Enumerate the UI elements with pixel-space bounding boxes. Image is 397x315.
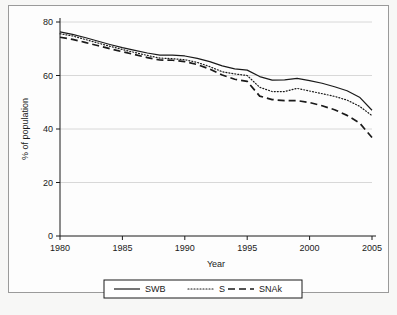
- x-axis-label: Year: [207, 259, 225, 269]
- x-tick-label: 1985: [112, 243, 132, 253]
- y-tick-label: 0: [48, 231, 53, 241]
- figure-container: 020406080 198019851990199520002005 % of …: [0, 0, 397, 315]
- x-tick-label: 2000: [300, 243, 320, 253]
- series-line-s: [60, 34, 372, 116]
- series-line-snak: [60, 37, 372, 137]
- y-tick-label: 20: [43, 178, 53, 188]
- x-axis-ticks: 198019851990199520002005: [50, 236, 382, 253]
- x-tick-label: 1990: [175, 243, 195, 253]
- x-tick-label: 1995: [237, 243, 257, 253]
- data-series-group: [60, 32, 372, 138]
- legend-label-swb: SWB: [145, 284, 166, 294]
- y-axis-ticks: 020406080: [43, 17, 60, 241]
- x-tick-label: 1980: [50, 243, 70, 253]
- chart-legend: SWBSSNAk: [104, 280, 302, 298]
- line-chart: 020406080 198019851990199520002005 % of …: [0, 0, 397, 315]
- legend-label-snak: SNAk: [259, 284, 283, 294]
- y-tick-label: 60: [43, 71, 53, 81]
- y-tick-label: 80: [43, 17, 53, 27]
- x-tick-label: 2005: [362, 243, 382, 253]
- y-tick-label: 40: [43, 124, 53, 134]
- legend-label-s: S: [219, 284, 225, 294]
- y-axis-label: % of population: [20, 98, 30, 160]
